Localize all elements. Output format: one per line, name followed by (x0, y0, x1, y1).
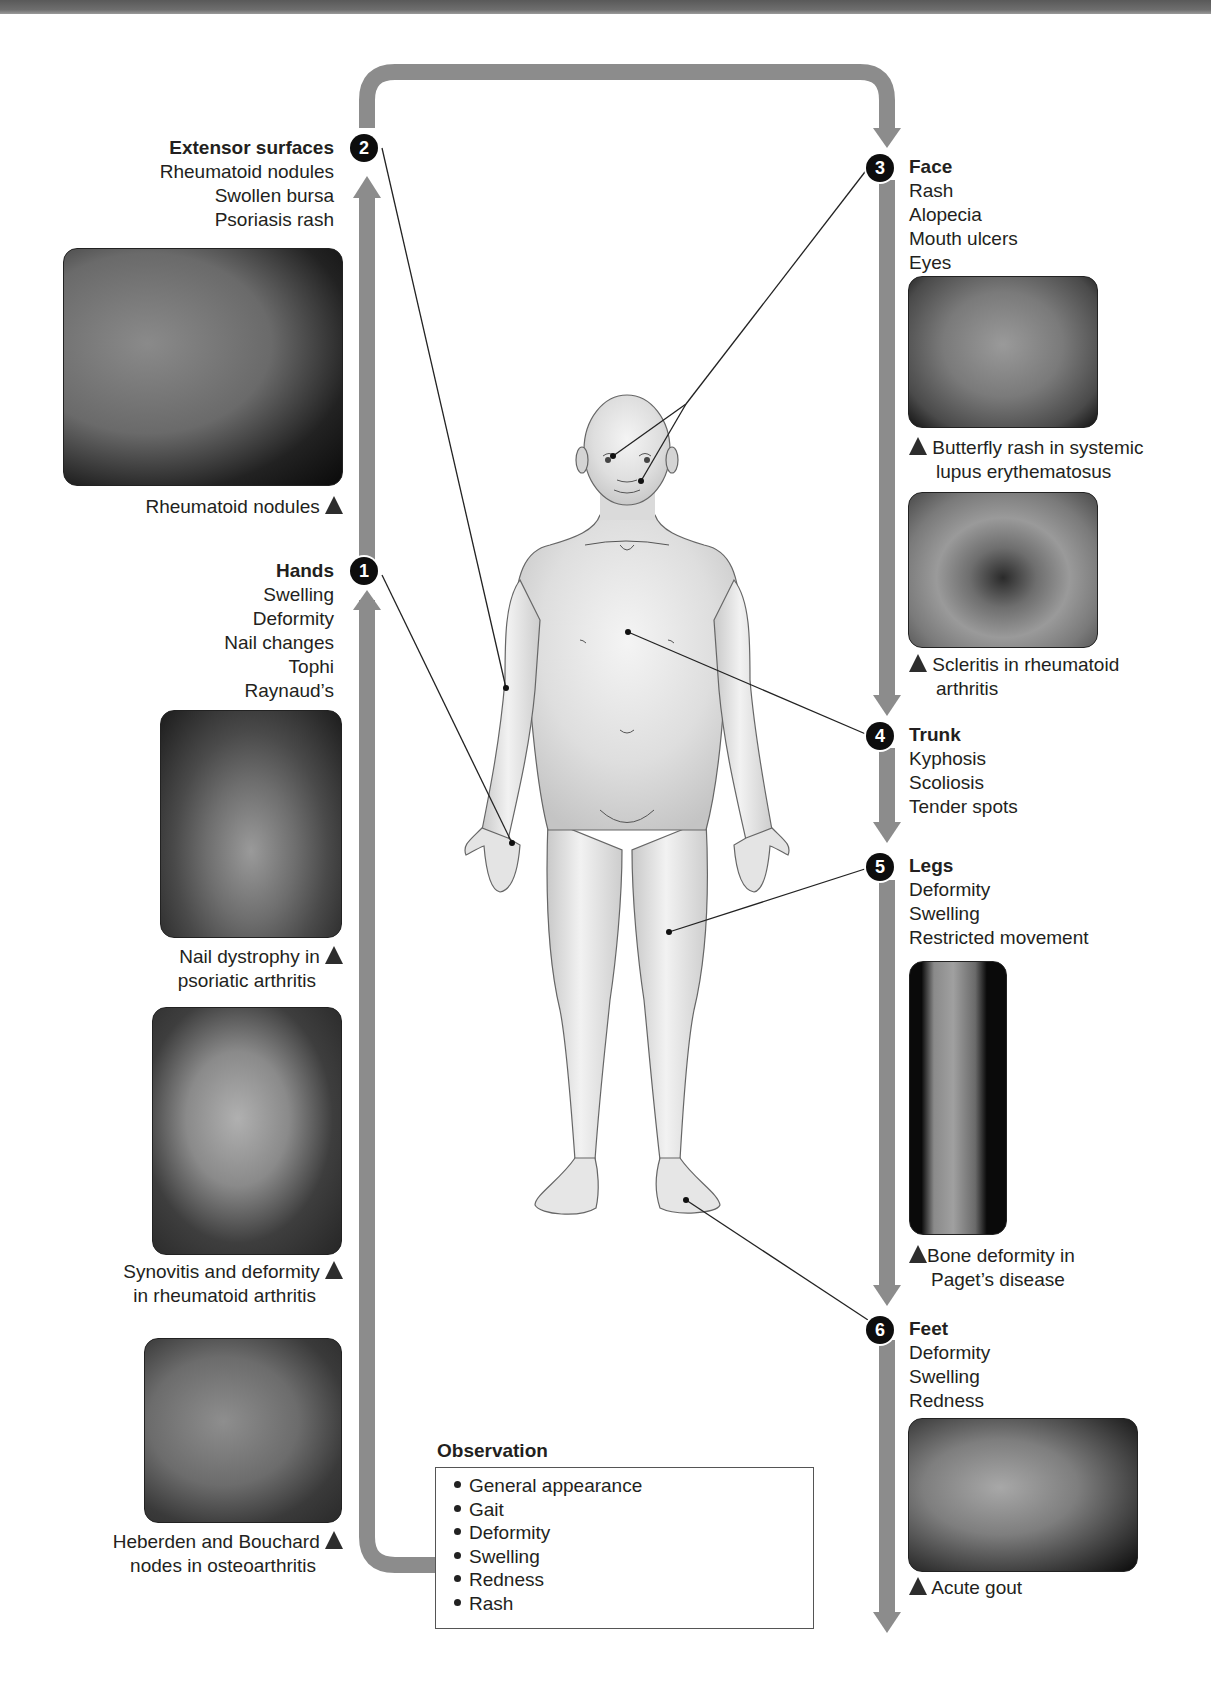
step-title: Hands (224, 559, 334, 583)
triangle-pointer-icon (325, 1261, 343, 1279)
step-extensor-surfaces: Extensor surfaces Rheumatoid nodules Swo… (160, 136, 334, 232)
photo-rheumatoid-nodules (63, 248, 343, 486)
step-item: Swelling (224, 583, 334, 607)
step-item: Psoriasis rash (160, 208, 334, 232)
caption-butterfly-rash: Butterfly rash in systemic lupus erythem… (909, 436, 1143, 484)
step-item: Raynaud’s (224, 679, 334, 703)
human-body-figure (465, 395, 789, 1214)
caption-acute-gout: Acute gout (909, 1576, 1022, 1600)
step-item: Swelling (909, 902, 1089, 926)
observation-item: General appearance (454, 1474, 813, 1498)
bullet-icon (454, 1505, 461, 1512)
step-item: Deformity (909, 878, 1089, 902)
step-item: Restricted movement (909, 926, 1089, 950)
triangle-pointer-icon (909, 654, 927, 672)
step-badge-1: 1 (350, 557, 378, 585)
observation-item: Redness (454, 1568, 813, 1592)
step-title: Feet (909, 1317, 990, 1341)
step-badge-2: 2 (350, 134, 378, 162)
step-item: Alopecia (909, 203, 1018, 227)
step-item: Redness (909, 1389, 990, 1413)
step-trunk: Trunk Kyphosis Scoliosis Tender spots (909, 723, 1018, 819)
photo-heberden-bouchard (144, 1338, 342, 1523)
triangle-pointer-icon (325, 1531, 343, 1549)
observation-item: Rash (454, 1592, 813, 1616)
step-legs: Legs Deformity Swelling Restricted movem… (909, 854, 1089, 950)
bullet-icon (454, 1481, 461, 1488)
step-item: Deformity (909, 1341, 990, 1365)
caption-nail-dystrophy: Nail dystrophy in psoriatic arthritis (178, 945, 343, 993)
photo-nail-dystrophy (160, 710, 342, 938)
step-hands: Hands Swelling Deformity Nail changes To… (224, 559, 334, 703)
bullet-icon (454, 1528, 461, 1535)
step-title: Extensor surfaces (160, 136, 334, 160)
bullet-icon (454, 1552, 461, 1559)
step-item: Rash (909, 179, 1018, 203)
caption-synovitis: Synovitis and deformity in rheumatoid ar… (123, 1260, 343, 1308)
photo-butterfly-rash (908, 276, 1098, 428)
photo-scleritis (908, 492, 1098, 648)
triangle-pointer-icon (325, 496, 343, 514)
step-item: Rheumatoid nodules (160, 160, 334, 184)
step-item: Tender spots (909, 795, 1018, 819)
caption-heberden-bouchard: Heberden and Bouchard nodes in osteoarth… (113, 1530, 343, 1578)
step-item: Swollen bursa (160, 184, 334, 208)
step-badge-6: 6 (866, 1316, 894, 1344)
photo-synovitis (152, 1007, 342, 1255)
triangle-pointer-icon (325, 946, 343, 964)
step-item: Mouth ulcers (909, 227, 1018, 251)
observation-title: Observation (437, 1440, 548, 1462)
bullet-icon (454, 1599, 461, 1606)
step-badge-5: 5 (866, 853, 894, 881)
photo-paget-leg (909, 961, 1007, 1235)
step-title: Face (909, 155, 1018, 179)
arrowheads (353, 128, 901, 1633)
observation-item: Deformity (454, 1521, 813, 1545)
step-item: Tophi (224, 655, 334, 679)
bullet-icon (454, 1575, 461, 1582)
step-item: Eyes (909, 251, 1018, 275)
caption-paget: Bone deformity in Paget’s disease (909, 1244, 1075, 1292)
step-item: Swelling (909, 1365, 990, 1389)
caption-scleritis: Scleritis in rheumatoid arthritis (909, 653, 1119, 701)
step-item: Deformity (224, 607, 334, 631)
step-title: Legs (909, 854, 1089, 878)
step-badge-4: 4 (866, 722, 894, 750)
step-item: Nail changes (224, 631, 334, 655)
step-face: Face Rash Alopecia Mouth ulcers Eyes (909, 155, 1018, 275)
step-feet: Feet Deformity Swelling Redness (909, 1317, 990, 1413)
step-title: Trunk (909, 723, 1018, 747)
observation-item: Gait (454, 1498, 813, 1522)
observation-box: General appearance Gait Deformity Swelli… (435, 1467, 814, 1629)
triangle-pointer-icon (909, 1577, 927, 1595)
observation-item: Swelling (454, 1545, 813, 1569)
caption-rheumatoid-nodules: Rheumatoid nodules (145, 495, 343, 519)
triangle-pointer-icon (909, 1245, 927, 1263)
step-badge-3: 3 (866, 154, 894, 182)
step-item: Scoliosis (909, 771, 1018, 795)
photo-acute-gout (908, 1418, 1138, 1572)
triangle-pointer-icon (909, 437, 927, 455)
step-item: Kyphosis (909, 747, 1018, 771)
